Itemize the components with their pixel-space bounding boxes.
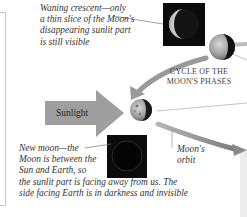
cycle-title: Cycle of the Moon's phases	[158, 67, 240, 86]
sunlight-label: Sunlight	[56, 108, 88, 118]
new-moon-caption: New moon—the Moon is between the Sun and…	[19, 143, 229, 199]
moon-far-right	[209, 34, 235, 60]
earth	[130, 99, 152, 121]
waning-crescent-caption: Waning crescent—only a thin slice of the…	[40, 3, 170, 48]
leader-line-right	[157, 103, 247, 111]
